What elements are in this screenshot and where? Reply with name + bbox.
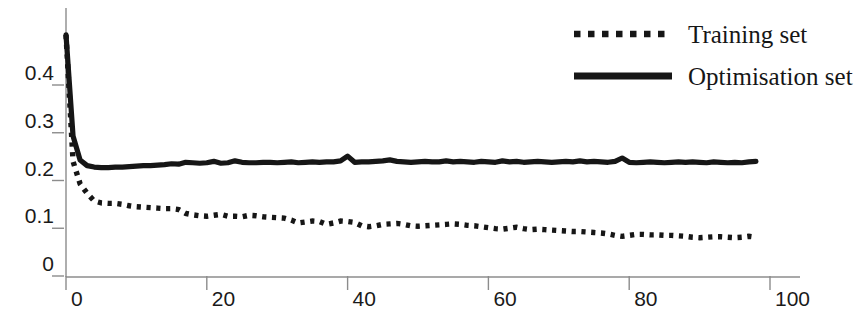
legend-label-training-set: Training set: [688, 21, 807, 48]
y-tick-label: 0.2: [25, 157, 54, 180]
y-axis-ticks: 00.10.20.30.4: [25, 61, 64, 276]
y-tick-label: 0.3: [25, 109, 54, 132]
chart-legend: Training setOptimisation set: [574, 21, 853, 90]
chart-figure: 00.10.20.30.4 020406080100 Training setO…: [0, 0, 862, 330]
x-axis-ticks: 020406080100: [66, 276, 810, 310]
y-tick-label: 0.4: [25, 61, 55, 84]
x-tick-label: 60: [493, 287, 516, 310]
x-tick-label: 20: [212, 287, 235, 310]
series-line-optimisation-set: [66, 35, 756, 168]
x-tick-label: 100: [775, 287, 810, 310]
series-line-training-set: [66, 35, 756, 238]
x-tick-label: 0: [71, 287, 83, 310]
learning-curve-chart: 00.10.20.30.4 020406080100 Training setO…: [0, 0, 862, 330]
y-tick-label: 0.1: [25, 204, 54, 227]
chart-series: [66, 35, 756, 238]
x-tick-label: 80: [634, 287, 657, 310]
y-tick-label: 0: [42, 252, 54, 275]
legend-label-optimisation-set: Optimisation set: [688, 63, 853, 90]
x-tick-label: 40: [353, 287, 376, 310]
